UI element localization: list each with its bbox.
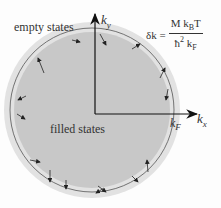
kx-axis-label: kx (197, 111, 207, 129)
filled-states-label: filled states (50, 122, 105, 137)
formula-lhs: δk = (146, 29, 166, 41)
kx-subscript: x (203, 119, 207, 129)
kf-label: kF (170, 116, 181, 132)
delta-k-formula: δk = M kBT ħ2 kF (146, 17, 203, 52)
formula-fraction: M kBT ħ2 kF (169, 17, 203, 52)
numerator-tail: T (194, 17, 201, 29)
empty-states-label: empty states (14, 20, 74, 35)
ky-subscript: y (107, 20, 111, 30)
fermi-surface-diagram: empty states filled states ky kx kF δk =… (0, 0, 221, 208)
denominator-sub: F (192, 43, 196, 52)
numerator-text: M k (171, 17, 189, 29)
kf-subscript: F (175, 122, 181, 132)
filled-states-disc (14, 32, 170, 188)
formula-denominator: ħ2 kF (175, 34, 197, 52)
ky-axis-label: ky (101, 12, 111, 30)
formula-numerator: M kBT (169, 17, 203, 34)
